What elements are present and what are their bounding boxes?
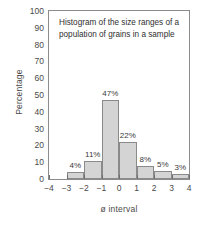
y-axis-tick-label: 20 <box>22 140 44 150</box>
x-axis-tick-label: 1 <box>134 183 139 193</box>
histogram-bar <box>119 142 137 179</box>
y-axis-tick-label: 0 <box>22 174 44 184</box>
bar-value-label: 8% <box>139 155 151 164</box>
histogram-bar <box>84 161 102 179</box>
y-axis-tick-label: 50 <box>22 90 44 100</box>
x-axis-tick <box>189 175 190 179</box>
plot-area: Histogram of the size ranges of apopulat… <box>48 10 190 180</box>
y-axis-tick-label: 30 <box>22 124 44 134</box>
y-axis-tick-label: 40 <box>22 107 44 117</box>
x-axis-tick <box>67 175 68 179</box>
y-axis-tick-label: 70 <box>22 56 44 66</box>
x-axis-tick-label: 0 <box>117 183 122 193</box>
bar-value-label: 5% <box>157 160 169 169</box>
histogram-bar <box>172 174 190 179</box>
bar-value-label: 3% <box>174 163 186 172</box>
bar-value-label: 4% <box>69 161 81 170</box>
x-axis-title: ø interval <box>48 204 190 214</box>
x-axis-tick-label: −2 <box>79 183 89 193</box>
bar-value-label: 47% <box>102 89 118 98</box>
x-axis-tick-label: 3 <box>169 183 174 193</box>
x-axis-tick <box>84 175 85 179</box>
y-axis-tick-label: 60 <box>22 73 44 83</box>
x-axis-tick <box>102 175 103 179</box>
x-axis-tick-label: −1 <box>97 183 107 193</box>
x-axis-tick-label: −4 <box>44 183 54 193</box>
bar-value-label: 11% <box>85 150 100 159</box>
histogram-bar <box>67 172 85 179</box>
x-axis-tick-label: 4 <box>187 183 192 193</box>
x-axis-tick <box>172 175 173 179</box>
histogram-bar <box>154 171 172 179</box>
y-axis-tick-label: 100 <box>22 6 44 16</box>
x-axis-tick-label: −3 <box>62 183 72 193</box>
histogram-bar <box>102 100 120 179</box>
bars-container: 4%11%47%22%8%5%3% <box>49 11 189 179</box>
y-axis-tick-label: 80 <box>22 40 44 50</box>
x-axis-tick <box>137 175 138 179</box>
bar-value-label: 22% <box>120 131 136 140</box>
x-axis-tick <box>49 175 50 179</box>
x-axis-tick <box>119 175 120 179</box>
x-axis-tick <box>154 175 155 179</box>
histogram-bar <box>137 166 155 179</box>
histogram-figure: Percentage 0102030405060708090100 Histog… <box>0 0 208 230</box>
y-axis-tick-label: 10 <box>22 157 44 167</box>
x-axis-tick-label: 2 <box>152 183 157 193</box>
y-axis-tick-label: 90 <box>22 23 44 33</box>
